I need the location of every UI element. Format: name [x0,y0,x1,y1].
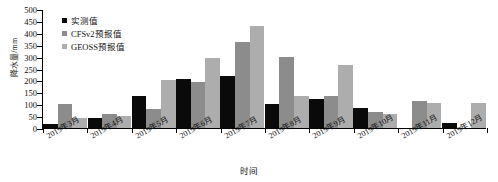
legend-label: CFSv2预报值 [71,27,122,39]
y-axis-tick [37,34,43,35]
y-axis-tick-label: 400 [9,29,37,39]
bar-group [264,10,308,128]
precipitation-bar-chart: 降水量/mm 050100150200250300350400450500 20… [0,0,498,182]
legend-item: 实测值 [62,14,125,26]
legend-swatch-icon [62,44,67,49]
bar-group [442,10,486,128]
y-axis-tick-label: 250 [9,65,37,75]
y-axis-tick [37,93,43,94]
legend-item: GEOSS预报值 [62,40,125,52]
y-axis-tick [37,117,43,118]
x-axis-title: 时间 [0,164,498,176]
bar-group [220,10,264,128]
chart-legend: 实测值CFSv2预报值GEOSS预报值 [62,14,125,53]
bar [176,79,191,128]
y-axis-tick-label: 50 [9,112,37,122]
legend-swatch-icon [62,18,67,23]
y-axis-tick [37,105,43,106]
y-axis-tick [37,70,43,71]
y-axis-tick [37,22,43,23]
x-axis-tick [487,128,488,133]
bar-group [309,10,353,128]
legend-item: CFSv2预报值 [62,27,125,39]
y-axis-tick-label: 0 [9,124,37,134]
y-axis-tick-label: 300 [9,53,37,63]
y-axis-tick [37,81,43,82]
legend-label: GEOSS预报值 [71,40,125,52]
y-axis-tick [37,58,43,59]
legend-label: 实测值 [71,14,98,26]
y-axis-tick-label: 200 [9,76,37,86]
y-axis-tick-label: 450 [9,17,37,27]
y-axis-tick-label: 500 [9,5,37,15]
bar-group [176,10,220,128]
bar [220,76,235,128]
y-axis-tick [37,46,43,47]
y-axis-tick [37,10,43,11]
bar-group [353,10,397,128]
y-axis-tick-label: 150 [9,88,37,98]
x-axis-tick-labels: 2019年3月2019年4月2019年5月2019年6月2019年7月2019年… [42,131,486,161]
bar-group [397,10,441,128]
legend-swatch-icon [62,31,67,36]
y-axis-tick-label: 100 [9,100,37,110]
y-axis-tick-label: 350 [9,41,37,51]
bar-group [132,10,176,128]
